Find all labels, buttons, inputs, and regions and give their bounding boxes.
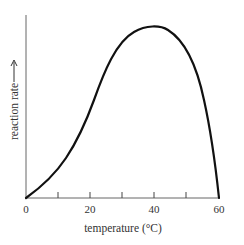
x-axis-ticks xyxy=(58,192,186,198)
y-axis-label: reaction rate xyxy=(8,83,20,140)
x-tick-label-20: 20 xyxy=(85,203,97,215)
y-axis-arrow-icon xyxy=(11,60,17,82)
x-axis-label: temperature (°C) xyxy=(84,222,162,235)
reaction-rate-curve xyxy=(26,26,219,198)
x-tick-label-60: 60 xyxy=(214,203,226,215)
x-tick-label-40: 40 xyxy=(149,203,161,215)
x-tick-label-0: 0 xyxy=(23,203,29,215)
reaction-rate-chart: 0 20 40 60 temperature (°C) reaction rat… xyxy=(0,0,244,245)
